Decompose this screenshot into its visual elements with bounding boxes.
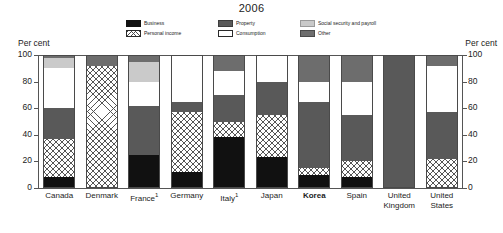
- bar-segment-property: [213, 95, 245, 122]
- bar-segment-other: [86, 55, 118, 66]
- y-tick-label-r-20: 20: [468, 155, 494, 165]
- y-tick-label-l-20: 20: [8, 155, 32, 165]
- bar-segment-property: [128, 106, 160, 155]
- bar-slot: [166, 55, 209, 188]
- bar-segment-business: [341, 177, 373, 188]
- bar-segment-other: [426, 55, 458, 66]
- bar-group: [38, 55, 463, 188]
- stacked-bar[interactable]: [43, 55, 75, 188]
- y-tick-label-l-60: 60: [8, 102, 32, 112]
- bar-segment-consumption: [298, 82, 330, 102]
- y-tick-mark-r-80: [463, 82, 467, 83]
- legend-label-property: Property: [236, 20, 255, 26]
- y-axis-caption-left: Per cent: [18, 38, 50, 48]
- bar-segment-consumption: [256, 55, 288, 82]
- bar-segment-social: [128, 62, 160, 82]
- stacked-bar[interactable]: [383, 55, 415, 188]
- stacked-bar[interactable]: [341, 55, 373, 188]
- y-tick-label-r-80: 80: [468, 76, 494, 86]
- bar-segment-personal: [298, 168, 330, 175]
- stacked-bar[interactable]: [171, 55, 203, 188]
- bar-segment-business: [298, 175, 330, 188]
- y-tick-label-r-40: 40: [468, 129, 494, 139]
- footnote-marker: 1: [155, 192, 158, 198]
- bar-segment-personal: [426, 159, 458, 188]
- bar-slot: [421, 55, 464, 188]
- x-axis-label-korea: Korea: [293, 190, 336, 214]
- bar-slot: [251, 55, 294, 188]
- bar-segment-business: [213, 137, 245, 188]
- stacked-bar[interactable]: [426, 55, 458, 188]
- y-tick-mark-r-20: [463, 161, 467, 162]
- legend-label-consumption: Consumption: [236, 30, 265, 36]
- stacked-bar[interactable]: [213, 55, 245, 188]
- x-axis-label-united-states: United States: [421, 190, 464, 214]
- bar-slot: [208, 55, 251, 188]
- chart-title: 2006: [0, 2, 503, 14]
- x-axis-label-denmark: Denmark: [81, 190, 124, 214]
- y-tick-mark-r-40: [463, 135, 467, 136]
- chart-legend: BusinessPersonal incomePropertyConsumpti…: [126, 19, 396, 38]
- bar-segment-other: [128, 55, 160, 62]
- y-tick-mark-r-0: [463, 188, 467, 189]
- plot-area: [38, 55, 463, 188]
- legend-label-business: Business: [144, 20, 164, 26]
- legend-swatch-other: [300, 30, 315, 37]
- legend-item-consumption[interactable]: Consumption: [218, 29, 265, 37]
- stacked-bar[interactable]: [298, 55, 330, 188]
- bar-slot: [81, 55, 124, 188]
- legend-swatch-property: [218, 20, 233, 27]
- bar-slot: [38, 55, 81, 188]
- legend-item-business[interactable]: Business: [126, 19, 181, 27]
- bar-segment-property: [341, 115, 373, 162]
- y-tick-label-l-40: 40: [8, 129, 32, 139]
- legend-item-other[interactable]: Other: [300, 29, 376, 37]
- y-tick-label-l-0: 0: [8, 182, 32, 192]
- bar-segment-property: [426, 112, 458, 159]
- stacked-bar[interactable]: [128, 55, 160, 188]
- bar-segment-personal: [341, 161, 373, 177]
- y-axis-caption-right: Per cent: [465, 38, 497, 48]
- y-tick-mark-r-60: [463, 108, 467, 109]
- bar-slot: [123, 55, 166, 188]
- bar-segment-other: [341, 55, 373, 82]
- bar-segment-personal: [43, 139, 75, 178]
- bar-segment-personal: [86, 66, 118, 188]
- plot-baseline: [38, 188, 463, 189]
- bar-segment-other: [213, 55, 245, 71]
- bar-segment-personal: [213, 122, 245, 138]
- legend-item-personal[interactable]: Personal income: [126, 29, 181, 37]
- bar-segment-property: [171, 102, 203, 113]
- bar-slot: [336, 55, 379, 188]
- y-tick-mark-r-100: [463, 55, 467, 56]
- legend-label-other: Other: [318, 30, 331, 36]
- bar-segment-business: [171, 172, 203, 188]
- stacked-bar[interactable]: [256, 55, 288, 188]
- legend-swatch-personal: [126, 30, 141, 37]
- x-axis-label-united-kingdom: United Kingdom: [378, 190, 421, 214]
- bar-segment-business: [256, 157, 288, 188]
- bar-segment-social: [43, 58, 75, 69]
- bar-slot: [293, 55, 336, 188]
- legend-item-property[interactable]: Property: [218, 19, 265, 27]
- bar-segment-business: [128, 155, 160, 188]
- stacked-bar[interactable]: [86, 55, 118, 188]
- footnote-marker: 1: [235, 192, 238, 198]
- legend-swatch-social: [300, 20, 315, 27]
- bar-segment-consumption: [43, 68, 75, 108]
- x-axis-label-japan: Japan: [251, 190, 294, 214]
- x-axis-label-germany: Germany: [166, 190, 209, 214]
- legend-swatch-business: [126, 20, 141, 27]
- legend-label-social: Social security and payroll: [318, 20, 376, 26]
- bar-segment-other: [298, 55, 330, 82]
- legend-column-1: BusinessPersonal income: [126, 19, 181, 39]
- x-axis-label-italy: Italy1: [208, 190, 251, 214]
- x-axis-label-spain: Spain: [336, 190, 379, 214]
- y-tick-label-l-80: 80: [8, 76, 32, 86]
- x-axis-label-france: France1: [123, 190, 166, 214]
- legend-column-3: Social security and payrollOther: [300, 19, 376, 39]
- y-tick-label-r-60: 60: [468, 102, 494, 112]
- x-axis-label-canada: Canada: [38, 190, 81, 214]
- legend-label-personal: Personal income: [144, 30, 181, 36]
- legend-item-social[interactable]: Social security and payroll: [300, 19, 376, 27]
